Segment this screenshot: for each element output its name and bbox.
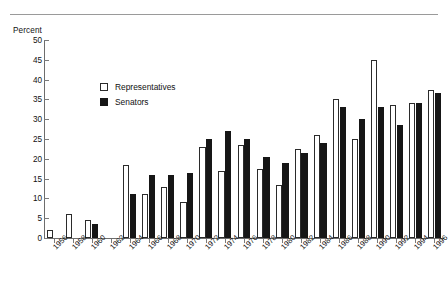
y-axis-tick-label: 25 [16,135,42,144]
bar-representatives-1988 [352,139,358,238]
bar-group [295,40,308,238]
bar-senators-1970 [187,173,193,238]
y-axis-tick [44,238,49,239]
bar-group [199,40,212,238]
bar-senators-1980 [282,163,288,238]
bar-group [66,40,79,238]
chart-legend: Representatives Senators [100,80,176,110]
legend-item-representatives: Representatives [100,80,176,93]
y-axis-tick-label: 15 [16,174,42,183]
bar-representatives-1992 [390,105,396,238]
bar-representatives-1980 [276,185,282,238]
bar-group [371,40,384,238]
legend-label: Representatives [115,82,176,92]
bar-senators-1992 [397,125,403,238]
open-square-icon [100,83,108,91]
bar-representatives-1990 [371,60,377,238]
bar-senators-1984 [320,143,326,238]
bar-group [123,40,136,238]
bar-senators-1974 [225,131,231,238]
plot-area [44,40,444,238]
bar-senators-1996 [435,93,441,238]
bar-group [257,40,270,238]
bar-group [314,40,327,238]
bar-senators-1990 [378,107,384,238]
bar-representatives-1964 [123,165,129,238]
bar-representatives-1978 [257,169,263,238]
bar-representatives-1972 [199,147,205,238]
bar-senators-1976 [244,139,250,238]
bar-representatives-1960 [85,220,91,238]
bar-representatives-1970 [180,202,186,238]
bar-group [428,40,441,238]
bar-senators-1966 [149,175,155,238]
bar-representatives-1974 [218,171,224,238]
filled-square-icon [100,98,108,106]
header-divider [10,14,438,15]
bar-senators-1982 [301,153,307,238]
bar-group [180,40,193,238]
bar-senators-1972 [206,139,212,238]
bar-group [390,40,403,238]
legend-item-senators: Senators [100,95,176,108]
bar-representatives-1994 [409,103,415,238]
bar-representatives-1968 [161,187,167,238]
y-axis-tick-label: 50 [16,36,42,45]
y-axis-tick-label: 30 [16,115,42,124]
bar-representatives-1958 [66,214,72,238]
bar-group [85,40,98,238]
bar-group [161,40,174,238]
bar-senators-1968 [168,175,174,238]
y-axis-tick-label: 5 [16,214,42,223]
bar-group [238,40,251,238]
y-axis-tick-label: 35 [16,95,42,104]
bar-representatives-1996 [428,90,434,239]
y-axis-tick-label: 10 [16,194,42,203]
bar-group [276,40,289,238]
y-tick-label-group: 05101520253035404550 [10,0,42,288]
bar-senators-1964 [130,194,136,238]
y-axis-tick-label: 45 [16,55,42,64]
bar-group [104,40,117,238]
bar-representatives-1966 [142,194,148,238]
bar-group [47,40,60,238]
bar-representatives-1986 [333,99,339,238]
bar-representatives-1976 [238,145,244,238]
bar-representatives-1956 [47,230,53,238]
bar-senators-1988 [359,119,365,238]
bar-representatives-1982 [295,149,301,238]
bar-group [352,40,365,238]
bar-group [409,40,422,238]
bar-senators-1986 [340,107,346,238]
y-axis-tick-label: 20 [16,154,42,163]
bar-group [333,40,346,238]
legend-label: Senators [115,97,149,107]
bar-group [142,40,155,238]
bar-senators-1978 [263,157,269,238]
bar-senators-1994 [416,103,422,238]
bar-representatives-1984 [314,135,320,238]
bar-group [218,40,231,238]
y-axis-tick-label: 0 [16,234,42,243]
y-axis-tick-label: 40 [16,75,42,84]
chart-figure: Percent 05101520253035404550 19561958196… [0,0,448,288]
